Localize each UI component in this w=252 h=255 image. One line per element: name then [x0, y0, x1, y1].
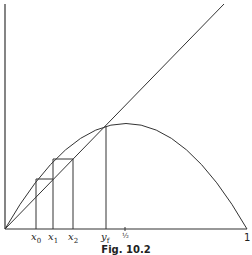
diagonal-line	[5, 4, 224, 229]
figure-caption: Fig. 10.2	[0, 244, 252, 255]
half-label: ½	[122, 233, 129, 240]
one-label: 1	[244, 232, 250, 243]
parabola-curve	[5, 124, 247, 230]
